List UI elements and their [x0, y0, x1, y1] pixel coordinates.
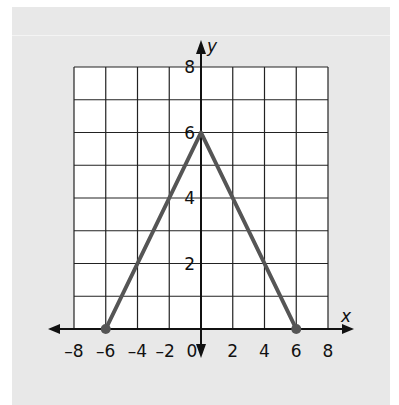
x-tick-label: –8: [64, 341, 83, 361]
x-tick-label: –2: [156, 341, 175, 361]
y-tick-label: 8: [184, 57, 195, 77]
x-axis-label: x: [340, 306, 352, 326]
y-axis-label: y: [206, 36, 218, 56]
x-tick-label: 8: [323, 341, 334, 361]
endpoint-dot: [101, 324, 111, 334]
x-tick-label: –4: [128, 341, 147, 361]
x-axis-arrow-left-icon: [48, 324, 60, 334]
y-axis-arrow-up-icon: [196, 40, 206, 54]
x-tick-label: 0: [187, 341, 198, 361]
y-tick-label: 4: [184, 188, 195, 208]
x-tick-label: 4: [259, 341, 270, 361]
x-tick-label: 6: [291, 341, 302, 361]
y-tick-label: 6: [184, 123, 195, 143]
x-tick-label: –6: [96, 341, 115, 361]
y-tick-label: 2: [184, 254, 195, 274]
x-tick-label: 2: [227, 341, 238, 361]
endpoint-dot: [291, 324, 301, 334]
y-axis-arrow-down-icon: [196, 344, 206, 358]
coordinate-plane: yx–8–6–4–2024682468: [0, 0, 399, 405]
